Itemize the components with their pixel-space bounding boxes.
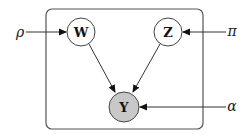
param-rho-label: ρ [15,24,25,40]
edge-w-to-y [89,44,115,92]
node-w-label: W [73,25,89,40]
edge-z-to-y [133,44,160,92]
node-w: W [67,18,95,46]
node-y-observed: Y [109,92,139,122]
param-pi-label: π [226,23,237,39]
node-z: Z [154,18,182,46]
param-alpha-label: α [227,98,237,114]
graphical-model-diagram: W Z Y ρ π α [0,0,249,136]
node-y-label: Y [118,100,129,115]
node-z-label: Z [163,25,173,40]
